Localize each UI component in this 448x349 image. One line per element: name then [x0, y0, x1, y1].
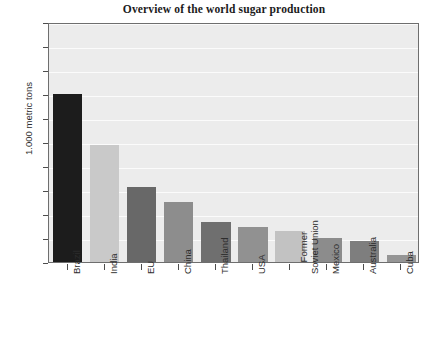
x-tick-label: FormerSoviet Union: [298, 220, 320, 274]
x-tick-mark: [252, 264, 253, 270]
y-axis-title: 1.000 metric tons: [23, 39, 34, 199]
bar-india: [90, 145, 119, 262]
x-tick-label: Mexico: [330, 244, 341, 274]
x-tick-mark: [178, 264, 179, 270]
x-tick-mark: [67, 264, 68, 270]
x-tick-mark: [400, 264, 401, 270]
x-tick-label: India: [108, 253, 119, 274]
bar-series: [49, 24, 418, 262]
x-tick-label-line: Former: [298, 220, 309, 274]
x-tick-label: Brazil: [71, 250, 82, 274]
x-tick-mark: [104, 264, 105, 270]
x-tick-label: USA: [256, 254, 267, 274]
chart-figure: Overview of the world sugar production 1…: [0, 0, 448, 349]
x-tick-label: EU: [145, 261, 156, 274]
x-tick-mark: [215, 264, 216, 270]
chart-title: Overview of the world sugar production: [0, 3, 448, 15]
plot-area: [48, 23, 419, 263]
x-tick-label-line: Soviet Union: [309, 220, 320, 274]
bar-eu: [127, 187, 156, 262]
x-tick-label: Australia: [367, 237, 378, 274]
x-tick-label: Thailand: [219, 238, 230, 274]
x-tick-mark: [289, 264, 290, 270]
x-tick-mark: [363, 264, 364, 270]
x-tick-mark: [141, 264, 142, 270]
y-tick-mark: [43, 263, 48, 264]
x-tick-label: Cuba: [404, 251, 415, 274]
x-tick-label: China: [182, 249, 193, 274]
bar-brazil: [53, 94, 82, 262]
x-tick-mark: [326, 264, 327, 270]
